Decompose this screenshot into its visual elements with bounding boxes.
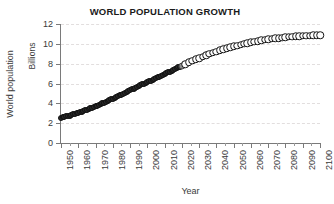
y-axis-title-primary: World population	[4, 24, 16, 143]
y-axis-tick	[56, 64, 61, 65]
y-axis-tick	[56, 84, 61, 85]
x-axis-tick	[216, 143, 217, 148]
x-axis-minor-tick	[173, 143, 174, 146]
x-axis-tick-label: 1980	[117, 150, 127, 170]
x-axis-minor-tick	[87, 143, 88, 146]
x-axis-tick-label: 1950	[65, 150, 75, 170]
y-axis-tick	[56, 103, 61, 104]
x-axis-title: Year	[61, 186, 320, 196]
x-axis-minor-tick	[311, 143, 312, 146]
y-axis-tick-label: 4	[48, 98, 53, 108]
y-axis-tick-label: 0	[48, 138, 53, 148]
x-axis-tick-label: 1960	[82, 150, 92, 170]
x-axis-minor-tick	[277, 143, 278, 146]
x-axis-minor-tick	[260, 143, 261, 146]
x-axis-tick-label: 2080	[289, 150, 299, 170]
x-axis-tick-label: 1970	[100, 150, 110, 170]
x-axis-tick-label: 2000	[151, 150, 161, 170]
y-axis-tick	[56, 24, 61, 25]
gridline	[61, 44, 320, 45]
y-axis-tick-label: 6	[48, 79, 53, 89]
y-axis-tick	[56, 123, 61, 124]
y-axis-tick-label: 10	[43, 39, 53, 49]
x-axis-tick-label: 2090	[307, 150, 317, 170]
x-axis-tick-label: 2070	[272, 150, 282, 170]
x-axis-tick	[113, 143, 114, 148]
x-axis-tick	[234, 143, 235, 148]
x-axis-minor-tick	[70, 143, 71, 146]
y-axis-tick-label: 2	[48, 118, 53, 128]
y-axis-title-primary-label: World population	[5, 50, 15, 117]
y-axis-tick-label: 12	[43, 19, 53, 29]
x-axis-tick	[165, 143, 166, 148]
x-axis-tick-label: 2100	[324, 150, 334, 170]
x-axis-tick	[147, 143, 148, 148]
x-axis-tick-label: 2060	[255, 150, 265, 170]
x-axis-tick	[268, 143, 269, 148]
gridlines	[61, 24, 320, 143]
gridline	[61, 123, 320, 124]
x-axis-minor-tick	[104, 143, 105, 146]
x-axis-tick-label: 2010	[169, 150, 179, 170]
y-axis-title-secondary: Billions	[26, 24, 38, 88]
x-axis-tick	[285, 143, 286, 148]
x-axis-tick-label: 1990	[134, 150, 144, 170]
x-axis-tick	[96, 143, 97, 148]
x-axis-tick	[303, 143, 304, 148]
x-axis-tick	[199, 143, 200, 148]
data-point	[316, 31, 324, 39]
x-axis-tick	[130, 143, 131, 148]
x-axis-tick-label: 2040	[220, 150, 230, 170]
x-axis-tick	[320, 143, 321, 148]
x-axis-minor-tick	[191, 143, 192, 146]
x-axis-tick-label: 2030	[203, 150, 213, 170]
y-axis-title-secondary-label: Billions	[27, 43, 37, 70]
x-axis-tick-label: 2050	[238, 150, 248, 170]
x-axis-tick-label: 2020	[186, 150, 196, 170]
y-axis-tick-label: 8	[48, 59, 53, 69]
x-axis-minor-tick	[225, 143, 226, 146]
x-axis-minor-tick	[121, 143, 122, 146]
gridline	[61, 84, 320, 85]
y-axis-tick	[56, 44, 61, 45]
x-axis-tick	[61, 143, 62, 148]
x-axis-minor-tick	[208, 143, 209, 146]
x-axis-tick	[182, 143, 183, 148]
gridline	[61, 24, 320, 25]
chart-title: WORLD POPULATION GROWTH	[0, 6, 330, 17]
plot-area: 024681012 195019601970198019902000201020…	[61, 24, 320, 143]
x-axis-minor-tick	[242, 143, 243, 146]
x-axis-minor-tick	[294, 143, 295, 146]
x-axis-tick	[78, 143, 79, 148]
x-axis-minor-tick	[139, 143, 140, 146]
x-axis-tick	[251, 143, 252, 148]
x-axis-minor-tick	[156, 143, 157, 146]
